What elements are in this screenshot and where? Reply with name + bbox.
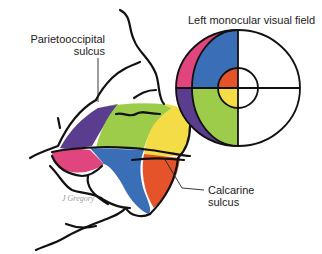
visual-field-title: Left monocular visual field bbox=[188, 14, 315, 26]
calcarine-label-line1: Calcarine bbox=[208, 184, 254, 196]
artist-signature: J Gregory bbox=[62, 194, 95, 203]
occipital-lobe-drawing bbox=[30, 10, 190, 250]
calcarine-label-line2: sulcus bbox=[208, 196, 240, 208]
parietooccipital-label-line2: sulcus bbox=[74, 45, 106, 57]
visual-field-circle bbox=[176, 30, 300, 146]
visual-field-diagram: Left monocular visual field Parietooccip… bbox=[0, 0, 322, 254]
parietooccipital-label-line1: Parietooccipital bbox=[30, 33, 105, 45]
